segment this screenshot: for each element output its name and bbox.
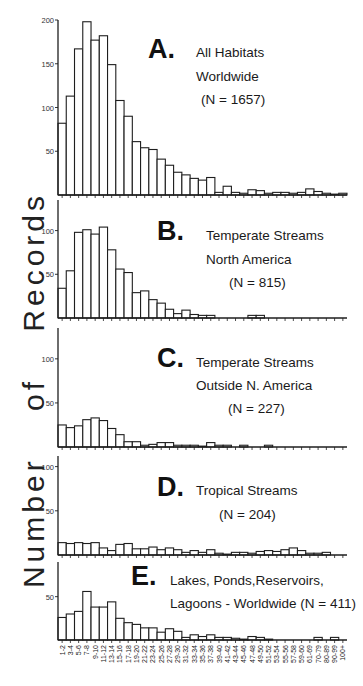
bar	[58, 617, 66, 640]
x-tick-labels: 1-23-45-67-89-1011-1213-1415-1617-1819-2…	[59, 645, 347, 663]
bar	[207, 443, 215, 447]
panel-title-line: All Habitats	[196, 45, 265, 60]
panel-letter: E.	[131, 561, 157, 591]
bar	[149, 300, 157, 318]
bar	[83, 591, 91, 640]
x-tick-label: 5-6	[75, 645, 82, 655]
x-tick-label: 19-20	[133, 645, 140, 663]
bar	[66, 428, 74, 447]
bar	[207, 550, 215, 555]
bar	[75, 426, 83, 447]
bar	[165, 548, 173, 555]
bar	[83, 230, 91, 318]
bar	[149, 628, 157, 640]
panel-title-line: Lagoons - Worldwide (N = 411)	[170, 596, 356, 611]
panel-title-line: Temperate Streams	[206, 228, 324, 243]
x-tick-label: 29-30	[174, 645, 181, 663]
bars	[58, 543, 330, 555]
x-tick-label: 70-79	[315, 645, 322, 663]
x-tick-label: 9-10	[92, 645, 99, 659]
x-tick-label: 33-34	[191, 645, 198, 663]
x-tick-label: 47-48	[249, 645, 256, 663]
bar	[99, 607, 107, 640]
x-tick-label: 3-4	[67, 645, 74, 655]
bar	[190, 551, 198, 555]
figure: 50100150200A.All HabitatsWorldwide(N = 1…	[0, 0, 363, 686]
panel-letter: D.	[157, 472, 184, 502]
bar	[99, 227, 107, 318]
bar	[141, 148, 149, 195]
panel-title-line: North America	[206, 252, 292, 267]
bars	[58, 418, 273, 447]
bar	[91, 607, 99, 640]
bar	[182, 175, 190, 195]
x-tick-label: 13-14	[108, 645, 115, 663]
x-tick-label: 55-56	[282, 645, 289, 663]
bar	[108, 65, 116, 195]
bar	[124, 442, 132, 447]
bar	[58, 123, 66, 195]
x-tick-label: 17-18	[125, 645, 132, 663]
bar	[165, 443, 173, 447]
bar	[99, 421, 107, 447]
bar	[124, 623, 132, 640]
x-tick-label: 53-54	[273, 645, 280, 663]
x-tick-label: 7-8	[83, 645, 90, 655]
panel-letter: A.	[148, 34, 175, 64]
bar	[66, 96, 74, 195]
x-tick-label: 45-46	[240, 645, 247, 663]
bar	[75, 232, 83, 318]
y-tick-label: 50	[46, 147, 54, 156]
y-axis-label: Number of Records	[17, 192, 51, 588]
x-tick-label: 31-32	[182, 645, 189, 663]
bar	[165, 309, 173, 318]
panel-title-line: Worldwide	[196, 69, 259, 84]
bar	[157, 443, 165, 447]
x-tick-label: 37-38	[207, 645, 214, 663]
bar	[124, 116, 132, 195]
panel-a: 50100150200A.All HabitatsWorldwide(N = 1…	[41, 16, 347, 198]
bar	[66, 271, 74, 318]
bar	[165, 165, 173, 195]
bar	[83, 544, 91, 555]
bar	[83, 420, 91, 447]
x-tick-label: 100+	[339, 645, 346, 661]
x-tick-label: 59-60	[298, 645, 305, 663]
bar	[83, 22, 91, 195]
bar	[75, 49, 83, 195]
x-tick-label: 57-58	[290, 645, 297, 663]
bar	[132, 442, 140, 447]
bar	[289, 548, 297, 555]
bar	[108, 250, 116, 318]
panel-letter: B.	[157, 216, 184, 246]
bar	[66, 544, 74, 555]
bar	[108, 602, 116, 640]
y-tick-label: 200	[41, 16, 54, 25]
bar	[132, 293, 140, 318]
bar	[297, 551, 305, 555]
bar	[75, 611, 83, 640]
bar	[248, 190, 256, 195]
x-tick-label: 15-16	[116, 645, 123, 663]
bar	[198, 180, 206, 195]
bar	[264, 551, 272, 555]
bar	[58, 543, 66, 555]
bar	[124, 273, 132, 318]
x-tick-label: 21-22	[141, 645, 148, 663]
sample-size-label: (N = 227)	[228, 401, 285, 416]
bar	[182, 310, 190, 318]
bar	[132, 549, 140, 555]
panel-title-line: Lakes, Ponds,Reservoirs,	[170, 573, 324, 588]
bar	[157, 303, 165, 318]
y-tick-label: 100	[41, 104, 54, 113]
bar	[99, 36, 107, 195]
y-tick-label: 150	[41, 60, 54, 69]
panel-e: 50E.Lakes, Ponds,Reservoirs,Lagoons - Wo…	[46, 561, 356, 643]
x-tick-label: 43-44	[232, 645, 239, 663]
bar	[58, 425, 66, 447]
bar	[66, 614, 74, 640]
bar	[108, 551, 116, 555]
bar	[91, 418, 99, 447]
bar	[116, 435, 124, 447]
x-tick-label: 27-28	[166, 645, 173, 663]
